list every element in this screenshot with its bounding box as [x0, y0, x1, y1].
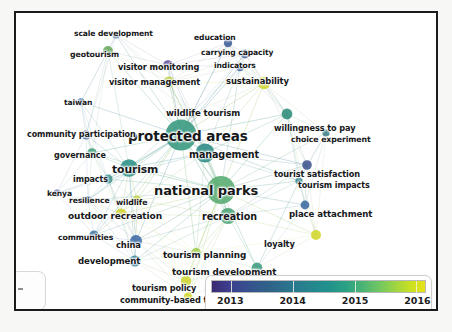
- network-edge: [257, 205, 305, 268]
- network-edge: [116, 35, 169, 82]
- network-edge: [108, 179, 121, 214]
- network-node[interactable]: [196, 144, 215, 163]
- network-edge: [192, 54, 245, 113]
- network-edge: [228, 216, 257, 268]
- network-edge: [108, 51, 169, 82]
- network-node[interactable]: [181, 276, 191, 286]
- network-node[interactable]: [120, 159, 138, 177]
- network-node[interactable]: [220, 208, 236, 224]
- year-colorbar-legend: 2013201420152016: [205, 275, 432, 311]
- network-edge: [168, 65, 192, 113]
- network-edge: [137, 200, 196, 253]
- network-node[interactable]: [163, 76, 174, 87]
- network-nodes: [54, 31, 330, 301]
- network-edge: [169, 82, 264, 83]
- network-edge: [116, 35, 192, 113]
- colorbar-tick-label: 2015: [342, 295, 368, 306]
- scan-artifact-dash: [18, 288, 23, 290]
- network-node[interactable]: [103, 174, 112, 183]
- network-node[interactable]: [54, 190, 61, 197]
- network-edge: [168, 43, 228, 65]
- network-edge: [57, 193, 88, 200]
- network-node[interactable]: [84, 196, 92, 204]
- network-edge: [135, 261, 186, 281]
- network-node[interactable]: [191, 248, 201, 258]
- network-node[interactable]: [166, 120, 197, 151]
- network-node[interactable]: [115, 208, 126, 219]
- colorbar-tick-mark: [293, 281, 294, 294]
- plot-frame: scale developmenteducationgeotourismcarr…: [14, 11, 438, 311]
- figure-container: scale developmenteducationgeotourismcarr…: [0, 0, 452, 332]
- network-edge: [86, 51, 108, 135]
- network-edge: [136, 241, 186, 281]
- network-node[interactable]: [295, 177, 302, 184]
- network-node[interactable]: [103, 46, 113, 56]
- network-edge: [86, 135, 88, 200]
- network-node[interactable]: [252, 263, 263, 274]
- network-node[interactable]: [207, 176, 235, 204]
- network-node[interactable]: [133, 196, 142, 205]
- network-edge: [287, 114, 326, 133]
- network-edge: [228, 43, 264, 83]
- network-edge: [57, 179, 108, 193]
- scan-artifact-shape: [14, 271, 46, 311]
- network-edge: [192, 67, 240, 113]
- network-edge: [135, 200, 137, 261]
- network-node[interactable]: [184, 293, 193, 302]
- network-edge: [196, 253, 257, 268]
- network-edge: [169, 43, 228, 82]
- colorbar-tick-labels: 2013201420152016: [211, 295, 426, 309]
- colorbar-tick-label: 2014: [279, 295, 305, 306]
- network-canvas: scale developmenteducationgeotourismcarr…: [16, 13, 436, 309]
- colorbar-tick-mark: [355, 281, 356, 294]
- network-node[interactable]: [282, 109, 293, 120]
- network-edge: [94, 235, 136, 241]
- network-edge: [137, 200, 186, 281]
- network-node[interactable]: [87, 148, 97, 158]
- network-node[interactable]: [301, 201, 310, 210]
- network-node[interactable]: [322, 129, 329, 136]
- network-edge: [228, 43, 287, 114]
- network-edge: [94, 235, 135, 261]
- network-node[interactable]: [311, 230, 321, 240]
- network-node[interactable]: [81, 130, 90, 139]
- network-edge: [205, 67, 240, 153]
- network-node[interactable]: [241, 50, 250, 59]
- network-edge: [205, 153, 307, 165]
- network-edge: [192, 83, 264, 113]
- network-edge: [240, 67, 287, 114]
- network-edge: [168, 65, 240, 67]
- network-edge: [88, 153, 92, 200]
- network-edge: [81, 102, 86, 135]
- network-edge: [136, 241, 196, 253]
- network-edge: [307, 165, 316, 235]
- network-node[interactable]: [112, 31, 119, 38]
- network-node[interactable]: [77, 98, 85, 106]
- network-edge: [287, 114, 307, 165]
- network-edge: [264, 83, 326, 133]
- network-edge: [116, 35, 168, 65]
- network-edge: [108, 179, 221, 190]
- network-edge: [168, 54, 245, 65]
- network-edge: [88, 200, 94, 235]
- colorbar-tick-mark: [231, 281, 232, 294]
- colorbar-tick-mark: [416, 281, 417, 294]
- network-edge: [136, 241, 188, 297]
- network-node[interactable]: [224, 39, 232, 47]
- network-edge: [257, 235, 316, 268]
- network-edge: [81, 102, 108, 179]
- network-node[interactable]: [258, 77, 270, 89]
- network-node[interactable]: [236, 63, 244, 71]
- colorbar-tick-label: 2013: [217, 295, 243, 306]
- network-edge: [228, 165, 307, 216]
- network-node[interactable]: [129, 255, 140, 266]
- network-node[interactable]: [302, 160, 312, 170]
- network-node[interactable]: [163, 60, 173, 70]
- network-node[interactable]: [89, 230, 98, 239]
- network-edge: [205, 114, 287, 153]
- network-node[interactable]: [130, 235, 142, 247]
- network-edge: [81, 102, 181, 135]
- network-node[interactable]: [188, 109, 197, 118]
- colorbar-tick-label: 2016: [404, 295, 430, 306]
- network-edge: [287, 114, 316, 235]
